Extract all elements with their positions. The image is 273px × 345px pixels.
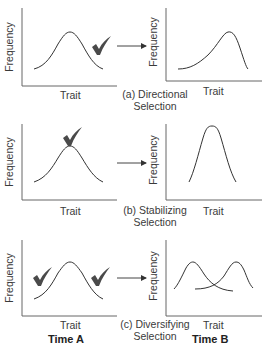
panel-a-caption-line1: (a) Directional [110, 88, 200, 100]
panel-c-before-graph [22, 240, 117, 316]
panel-b-caption-line1: (b) Stabilizing [110, 204, 200, 216]
panel-b-after-graph [166, 124, 262, 200]
panel-b-after-axes [166, 124, 262, 200]
panel-c-after-y-label: Frequency [147, 246, 159, 306]
panel-c-after-graph [166, 240, 262, 316]
panel-c-before-y-label: Frequency [3, 248, 15, 308]
time-b-label: Time B [192, 333, 228, 345]
time-a-label: Time A [48, 333, 84, 345]
panel-c-caption-line2: Selection [110, 330, 200, 342]
panel-c-check-left-icon [33, 267, 52, 286]
panel-b-after-x-label: Trait [203, 205, 224, 217]
panel-b-after-y-label: Frequency [147, 130, 159, 190]
panel-c-before-x-label: Trait [60, 319, 81, 331]
panel-a-caption: (a) Directional Selection [110, 88, 200, 112]
panel-a-caption-line2: Selection [110, 100, 200, 112]
panel-a-after-x-label: Trait [203, 85, 224, 97]
panel-a-after-y-label: Frequency [147, 12, 159, 72]
panel-b-caption-line2: Selection [110, 216, 200, 228]
panel-a-before-graph [22, 8, 117, 86]
panel-a-before-curve [34, 32, 103, 69]
panel-b-before-curve [34, 146, 103, 182]
panel-b-before-x-label: Trait [60, 205, 81, 217]
panel-c-after-curve-right [195, 262, 253, 289]
panel-c-caption-line1: (c) Diversifying [110, 318, 200, 330]
panel-b-after-curve [189, 126, 236, 182]
panel-a-before-y-label: Frequency [3, 17, 15, 77]
panel-a-check-icon [92, 36, 111, 55]
panel-c-after-x-label: Trait [203, 319, 224, 331]
panel-a-after-axes [166, 8, 262, 81]
panel-b-caption: (b) Stabilizing Selection [110, 204, 200, 228]
panel-c-caption: (c) Diversifying Selection [110, 318, 200, 342]
panel-b-check-icon [63, 127, 82, 146]
panel-b-before-graph [22, 124, 117, 200]
panel-b-before-y-label: Frequency [3, 132, 15, 192]
panel-b-before-axes [22, 124, 117, 200]
panel-c-check-right-icon [91, 267, 110, 286]
panel-a-before-x-label: Trait [60, 89, 81, 101]
panel-a-after-curve [178, 32, 248, 69]
panel-a-after-graph [166, 8, 262, 81]
